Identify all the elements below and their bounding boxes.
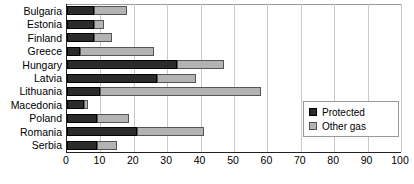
y-axis-label-poland: Poland xyxy=(0,113,62,124)
legend-label: Other gas xyxy=(322,121,366,132)
bar-segment-other-gas xyxy=(84,100,88,109)
x-tick-label: 40 xyxy=(194,154,206,166)
y-axis-label-hungary: Hungary xyxy=(0,60,62,71)
y-axis-label-serbia: Serbia xyxy=(0,140,62,151)
y-axis-label-latvia: Latvia xyxy=(0,73,62,84)
x-axis-tick-labels: 0102030405060708090100 xyxy=(66,154,400,170)
bar-segment-other-gas xyxy=(80,47,153,56)
bar-segment-other-gas xyxy=(97,114,129,123)
x-tick-label: 10 xyxy=(94,154,106,166)
legend-swatch-icon xyxy=(309,122,317,130)
bar-segment-protected xyxy=(67,127,137,136)
legend-label: Protected xyxy=(322,107,365,118)
x-tick-label: 90 xyxy=(361,154,373,166)
bar-segment-protected xyxy=(67,60,177,69)
bar-segment-other-gas xyxy=(97,141,117,150)
legend-swatch-icon xyxy=(309,108,317,116)
bar-row xyxy=(67,47,401,56)
x-tick-label: 30 xyxy=(160,154,172,166)
bar-segment-other-gas xyxy=(94,33,112,42)
y-axis-label-greece: Greece xyxy=(0,46,62,57)
bar-segment-protected xyxy=(67,87,100,96)
y-axis-label-estonia: Estonia xyxy=(0,19,62,30)
x-tick-label: 80 xyxy=(327,154,339,166)
bar-row xyxy=(67,20,401,29)
bar-segment-protected xyxy=(67,114,97,123)
legend-item-protected[interactable]: Protected xyxy=(309,105,394,119)
bar-segment-protected xyxy=(67,6,94,15)
bar-segment-other-gas xyxy=(100,87,260,96)
bar-segment-protected xyxy=(67,141,97,150)
bar-segment-protected xyxy=(67,100,84,109)
x-tick-label: 0 xyxy=(63,154,69,166)
bar-segment-other-gas xyxy=(177,60,224,69)
bar-row xyxy=(67,141,401,150)
bar-row xyxy=(67,60,401,69)
bar-segment-protected xyxy=(67,74,157,83)
bar-segment-other-gas xyxy=(94,20,104,29)
bar-row xyxy=(67,87,401,96)
bar-segment-other-gas xyxy=(94,6,127,15)
bar-row xyxy=(67,74,401,83)
x-tick-label: 100 xyxy=(391,154,409,166)
x-tick-label: 20 xyxy=(127,154,139,166)
x-tick-label: 60 xyxy=(261,154,273,166)
chart-legend: ProtectedOther gas xyxy=(303,101,399,137)
bar-row xyxy=(67,33,401,42)
x-tick-label: 70 xyxy=(294,154,306,166)
y-axis-label-macedonia: Macedonia xyxy=(0,100,62,111)
y-axis-category-labels: BulgariaEstoniaFinlandGreeceHungaryLatvi… xyxy=(0,4,62,152)
y-axis-label-bulgaria: Bulgaria xyxy=(0,6,62,17)
y-axis-label-finland: Finland xyxy=(0,33,62,44)
y-axis-label-romania: Romania xyxy=(0,127,62,138)
bar-segment-other-gas xyxy=(157,74,195,83)
y-axis-label-lithuania: Lithuania xyxy=(0,86,62,97)
bar-segment-protected xyxy=(67,33,94,42)
legend-item-other-gas[interactable]: Other gas xyxy=(309,119,394,133)
gridline xyxy=(401,4,402,152)
bar-row xyxy=(67,6,401,15)
bar-segment-protected xyxy=(67,20,94,29)
bar-segment-protected xyxy=(67,47,80,56)
stacked-bar-chart: BulgariaEstoniaFinlandGreeceHungaryLatvi… xyxy=(0,0,414,184)
x-tick-label: 50 xyxy=(227,154,239,166)
bar-segment-other-gas xyxy=(137,127,204,136)
